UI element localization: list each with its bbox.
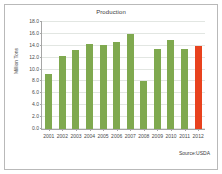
- bar-series: 2001200220032004200520062007200820092010…: [42, 22, 205, 129]
- x-axis-tick-label: 2002: [57, 133, 68, 139]
- bar-slot: 2012: [191, 22, 205, 129]
- x-axis-tick-label: 2001: [43, 133, 54, 139]
- y-axis-tick-label: 2.0: [32, 113, 39, 119]
- x-axis-tick-label: 2010: [165, 133, 176, 139]
- bar: [127, 34, 134, 129]
- x-axis-tick-label: 2009: [152, 133, 163, 139]
- x-axis-tick-mark: [185, 129, 186, 131]
- x-axis-tick-mark: [144, 129, 145, 131]
- source-note: Source:USDA: [179, 150, 210, 156]
- y-axis-tick-label: 18.0: [29, 18, 39, 24]
- bar-slot: 2006: [110, 22, 124, 129]
- bar-slot: 2008: [137, 22, 151, 129]
- bar: [154, 49, 161, 129]
- bar: [72, 50, 79, 129]
- bar-slot: 2011: [178, 22, 192, 129]
- x-axis-tick-mark: [90, 129, 91, 131]
- bar-slot: 2005: [96, 22, 110, 129]
- x-axis-tick-mark: [198, 129, 199, 131]
- bar-slot: 2007: [123, 22, 137, 129]
- y-axis-tick-label: 8.0: [32, 77, 39, 83]
- y-axis-tick-label: 4.0: [32, 101, 39, 107]
- y-axis-tick-label: 0.0: [32, 125, 39, 131]
- bar-slot: 2009: [151, 22, 165, 129]
- x-axis-tick-mark: [130, 129, 131, 131]
- bar-slot: 2001: [42, 22, 56, 129]
- x-axis-tick-label: 2004: [84, 133, 95, 139]
- y-axis-tick-label: 10.0: [29, 66, 39, 72]
- bar: [113, 42, 120, 129]
- x-axis-tick-label: 2008: [138, 133, 149, 139]
- x-axis-tick-label: 2003: [70, 133, 81, 139]
- chart-title: Production: [0, 9, 222, 15]
- x-axis-tick-mark: [62, 129, 63, 131]
- x-axis-tick-label: 2005: [98, 133, 109, 139]
- bar: [45, 74, 52, 129]
- bar-slot: 2010: [164, 22, 178, 129]
- y-axis-tick-label: 12.0: [29, 54, 39, 60]
- x-axis-tick-label: 2007: [125, 133, 136, 139]
- x-axis-tick-mark: [117, 129, 118, 131]
- bar: [59, 56, 66, 129]
- x-axis-tick-mark: [157, 129, 158, 131]
- x-axis-tick-label: 2012: [193, 133, 204, 139]
- x-axis-tick-mark: [171, 129, 172, 131]
- bar: [100, 45, 107, 129]
- bar-slot: 2004: [83, 22, 97, 129]
- bar: [181, 49, 188, 129]
- bar: [167, 40, 174, 129]
- y-axis-tick-label: 14.0: [29, 42, 39, 48]
- bar-slot: 2003: [69, 22, 83, 129]
- x-axis-tick-mark: [103, 129, 104, 131]
- bar: [140, 81, 147, 129]
- bar: [86, 44, 93, 129]
- bar-slot: 2002: [56, 22, 70, 129]
- chart-figure: Production Million Tons 18.016.014.012.0…: [0, 0, 222, 174]
- x-axis-tick-label: 2011: [179, 133, 190, 139]
- x-axis-tick-label: 2006: [111, 133, 122, 139]
- bar: [195, 46, 202, 129]
- x-axis-tick-mark: [49, 129, 50, 131]
- y-axis-label: Million Tons: [13, 31, 19, 91]
- plot-area: 18.016.014.012.010.08.06.04.02.00.0 2001…: [41, 22, 205, 130]
- y-axis-tick-label: 16.0: [29, 30, 39, 36]
- x-axis-tick-mark: [76, 129, 77, 131]
- y-axis-tick-label: 6.0: [32, 89, 39, 95]
